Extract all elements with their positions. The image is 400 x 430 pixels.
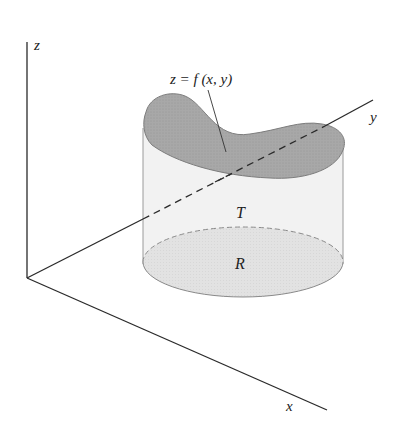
z-axis-label: z [33,37,40,53]
y-axis-outer-right [325,100,373,126]
x-axis-label: x [285,398,293,414]
region-r-label: R [234,255,245,272]
solid-under-surface-diagram: z z = f (x, y) y T R x [0,0,400,430]
surface-label: z = f (x, y) [169,71,232,88]
y-axis-outer-left [27,219,143,278]
solid-t-label: T [236,204,246,221]
y-axis-label: y [368,109,377,125]
x-axis [27,278,327,410]
